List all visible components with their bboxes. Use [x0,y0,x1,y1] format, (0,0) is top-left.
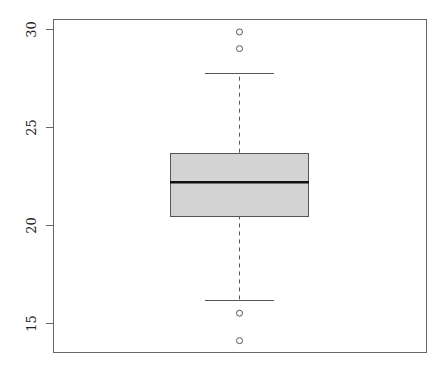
outlier-point [237,29,243,35]
box-plot [170,29,309,344]
y-tick-label: 15 [24,315,39,332]
outlier-point [237,338,243,344]
y-tick-label: 20 [24,217,39,234]
outlier-point [237,310,243,316]
outlier-point [237,46,243,52]
y-axis: 15202530 [24,21,53,332]
iqr-box [171,154,309,217]
boxplot-chart: 15202530 [0,0,448,371]
y-tick-label: 30 [24,21,39,38]
y-tick-label: 25 [24,119,39,136]
